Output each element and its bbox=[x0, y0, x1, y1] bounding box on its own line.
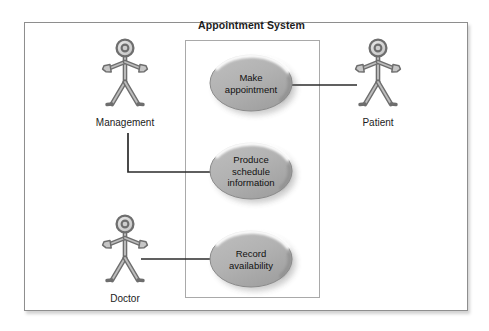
actor-patient[interactable] bbox=[356, 40, 401, 105]
actor-doctor[interactable] bbox=[103, 216, 148, 281]
use-case-ellipse-make-appointment[interactable] bbox=[210, 55, 292, 111]
use-case-ellipse-record-availability[interactable] bbox=[210, 231, 292, 287]
actor-label-patient: Patient bbox=[328, 117, 428, 128]
use-case-diagram-canvas: Appointment System bbox=[0, 0, 489, 331]
diagram-artwork bbox=[0, 0, 489, 331]
actor-management[interactable] bbox=[103, 40, 148, 105]
use-case-ellipse-produce-schedule-information[interactable] bbox=[210, 143, 292, 199]
association-management-produce-schedule-information bbox=[128, 133, 211, 172]
actor-label-management: Management bbox=[75, 117, 175, 128]
actor-label-doctor: Doctor bbox=[75, 293, 175, 304]
